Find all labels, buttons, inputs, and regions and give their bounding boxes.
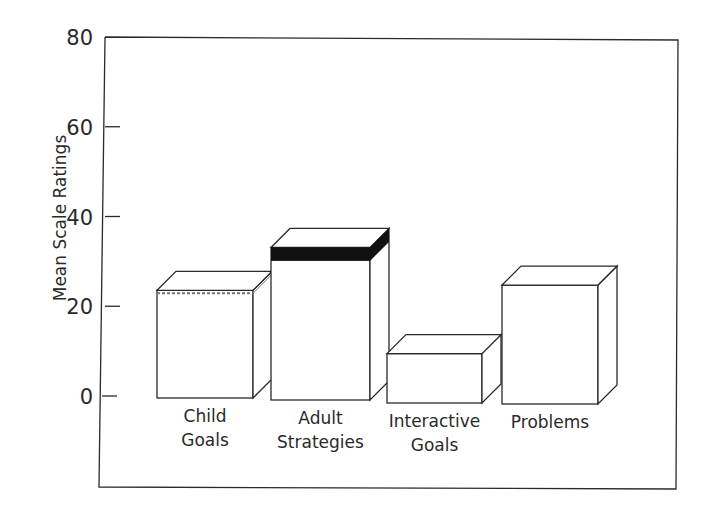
category-label: Child — [184, 406, 227, 426]
y-tick-label: 20 — [66, 295, 93, 319]
y-axis-title: Mean Scale Ratings — [50, 135, 70, 302]
category-label: Strategies — [277, 432, 364, 452]
bar-child-goals — [157, 271, 272, 398]
y-tick-label: 40 — [66, 206, 93, 230]
category-labels: ChildGoalsAdultStrategiesInteractiveGoal… — [181, 406, 589, 455]
y-tick-label: 0 — [80, 385, 93, 409]
y-tick-label: 80 — [66, 26, 93, 50]
bar-adult-strategies — [271, 228, 389, 400]
category-label: Adult — [298, 408, 343, 428]
bar-problems — [502, 266, 617, 404]
category-label: Goals — [181, 430, 229, 450]
bar-chart: 020406080 Mean Scale Ratings ChildGoalsA… — [0, 0, 702, 518]
category-label: Interactive — [389, 411, 481, 431]
bar-interactive-goals — [387, 335, 501, 403]
bar-top-band — [271, 247, 370, 260]
category-label: Problems — [511, 412, 590, 432]
bars — [157, 228, 617, 404]
category-label: Goals — [411, 435, 459, 455]
y-tick-label: 60 — [66, 116, 93, 140]
y-axis: 020406080 — [66, 26, 120, 409]
